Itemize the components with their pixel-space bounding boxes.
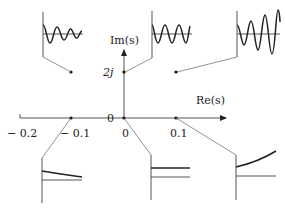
inset-sustained-oscillation [152, 11, 192, 58]
inset-damped-oscillation [43, 12, 83, 57]
real-tick-neg-0.1: − 0.1 [60, 127, 90, 140]
real-tick-0: 0 [122, 127, 129, 140]
real-axis-label: Re(s) [196, 94, 225, 107]
origin-marker: 0 [107, 112, 114, 125]
inset-growing-oscillation [237, 10, 280, 57]
leader-top-right [177, 57, 237, 72]
real-tick-neg-0.2: − 0.2 [7, 127, 37, 140]
inset-constant [151, 155, 190, 200]
leader-top-middle [125, 58, 152, 72]
imag-axis-label: Im(s) [110, 34, 139, 47]
inset-decaying-exponential [42, 158, 82, 203]
real-tick-0.1: 0.1 [170, 127, 188, 140]
s-plane-diagram: Im(s) Re(s) 0 2j − 0.2 − 0.1 0 0.1 [0, 0, 285, 212]
leader-top-left [43, 57, 71, 72]
inset-growing-exponential [236, 151, 276, 200]
imag-tick-2j: 2j [102, 66, 114, 79]
